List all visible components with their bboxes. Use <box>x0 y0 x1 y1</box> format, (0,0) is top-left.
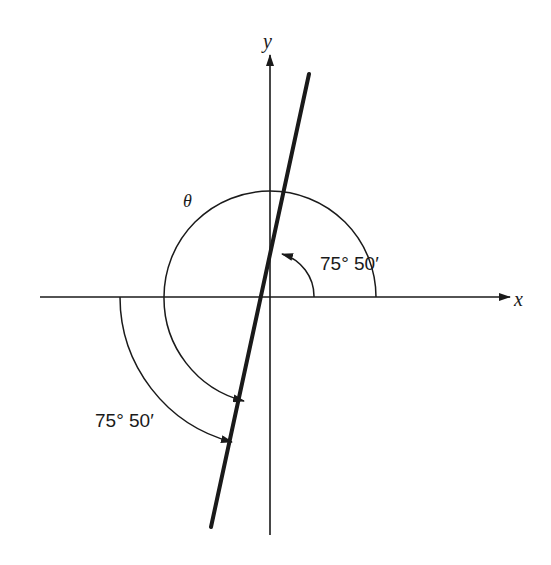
upper-angle-label: 75° 50′ <box>320 253 379 274</box>
lower-angle-label: 75° 50′ <box>95 410 154 431</box>
theta-label: θ <box>183 191 192 211</box>
x-axis-label: x <box>513 288 523 310</box>
small-angle-arc <box>282 254 314 297</box>
terminal-line <box>211 74 309 527</box>
angle-diagram: y x θ 75° 50′ 75° 50′ <box>0 0 551 565</box>
y-axis-label: y <box>261 30 272 53</box>
